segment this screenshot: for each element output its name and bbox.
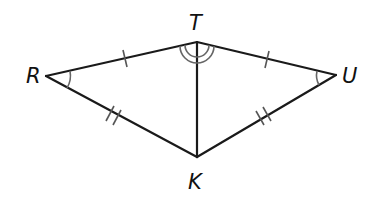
point-label-k: K [188, 170, 204, 194]
segment-rt [46, 42, 197, 76]
kite-diagram: T R U K [0, 0, 387, 205]
double-tick-mark-uk [256, 107, 271, 125]
segment-rk [46, 76, 197, 157]
angle-arc-u [317, 71, 319, 85]
segment-uk [197, 75, 336, 157]
angle-arc-r [67, 71, 70, 88]
point-label-t: T [189, 11, 204, 35]
point-label-u: U [342, 64, 357, 88]
point-label-r: R [26, 64, 41, 88]
